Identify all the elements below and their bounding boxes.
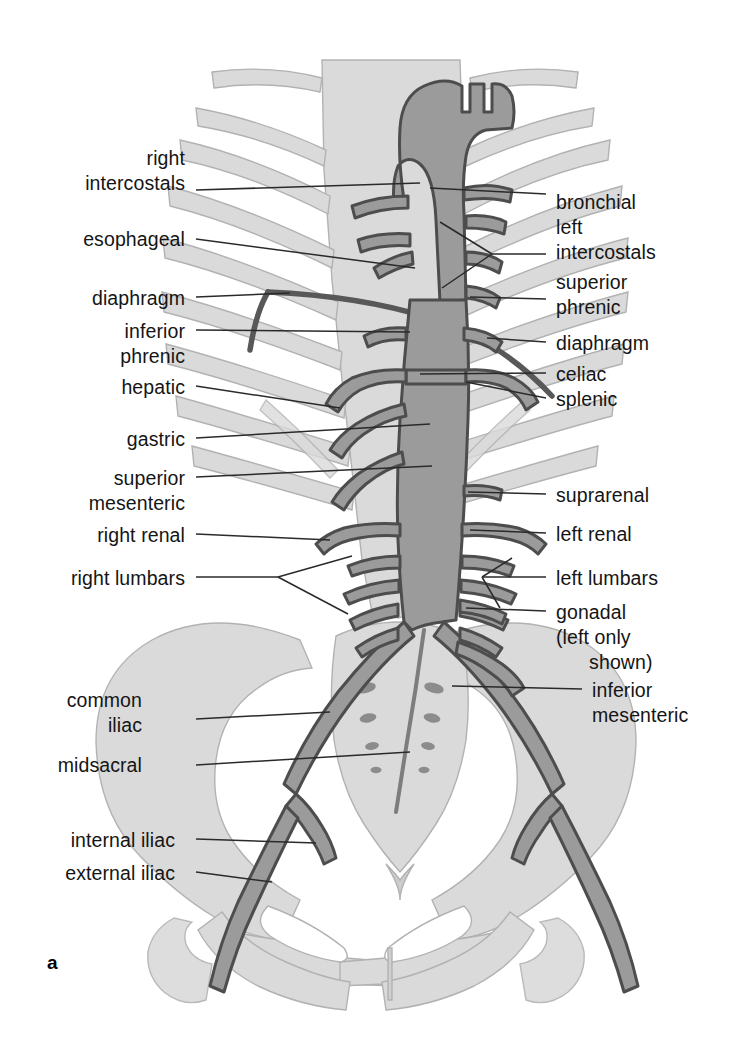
label-hepatic: hepatic xyxy=(121,375,185,400)
label-bronchial: bronchial xyxy=(556,190,636,215)
renal-artery-left xyxy=(462,524,546,555)
anatomical-figure: right intercostalsesophagealdiaphragminf… xyxy=(0,0,729,1048)
label-inferior-mesenteric: inferior mesenteric xyxy=(592,678,688,728)
label-superior-phrenic: superior phrenic xyxy=(556,270,627,320)
leader-celiac xyxy=(420,373,546,374)
label-superior-mesenteric: superior mesenteric xyxy=(89,466,185,516)
label-diaphragm-left: diaphragm xyxy=(92,286,185,311)
descending-aorta xyxy=(397,300,468,630)
label-left-intercostals: left intercostals xyxy=(556,215,656,265)
bronchial-artery xyxy=(464,185,512,202)
celiac-trunk xyxy=(406,370,466,384)
label-left-renal: left renal xyxy=(556,522,632,547)
clavicle-right xyxy=(212,69,322,92)
figure-letter: a xyxy=(47,952,58,974)
label-right-intercostals: right intercostals xyxy=(85,146,185,196)
label-midsacral: midsacral xyxy=(58,753,142,778)
intercostal-left-2 xyxy=(466,252,502,273)
label-esophageal: esophageal xyxy=(83,227,185,252)
sacrum xyxy=(331,622,468,872)
label-external-iliac: external iliac xyxy=(65,861,175,886)
label-splenic: splenic xyxy=(556,387,617,412)
label-suprarenal: suprarenal xyxy=(556,483,649,508)
pubic-symphysis xyxy=(388,948,392,1000)
leader-right-renal xyxy=(196,534,330,540)
intercostal-left-1 xyxy=(466,216,506,234)
label-gonadal: gonadal (left only shown) xyxy=(556,600,653,675)
label-right-lumbars: right lumbars xyxy=(71,566,185,591)
label-internal-iliac: internal iliac xyxy=(71,828,175,853)
clavicle-left xyxy=(470,69,578,92)
leader-right-lumbars-up xyxy=(278,556,352,577)
label-common-iliac: common iliac xyxy=(67,688,142,738)
ilium-right xyxy=(96,623,312,940)
label-diaphragm-right: diaphragm xyxy=(556,331,649,356)
label-left-lumbars: left lumbars xyxy=(556,566,658,591)
label-right-renal: right renal xyxy=(97,523,185,548)
label-gastric: gastric xyxy=(127,427,185,452)
leader-right-lumbars-down xyxy=(278,577,348,614)
label-inferior-phrenic: inferior phrenic xyxy=(120,319,185,369)
label-celiac: celiac xyxy=(556,362,606,387)
